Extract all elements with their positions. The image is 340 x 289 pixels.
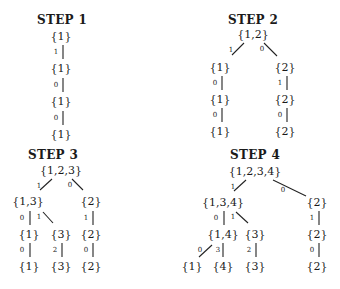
edge-label: 0 xyxy=(310,246,314,254)
tree-node: {1} xyxy=(51,128,72,141)
tree-node: {1,2} xyxy=(237,28,269,41)
subset-tree-diagram: STEP 1{1}{1}{1}{1}100STEP 2{1,2}{1}{1}{1… xyxy=(0,0,340,289)
tree-node: {1} xyxy=(19,260,40,273)
tree-node: {1} xyxy=(210,93,231,106)
tree-node: {1,2,3} xyxy=(40,164,82,177)
edge-lines xyxy=(0,0,340,289)
tree-node: {2} xyxy=(307,260,328,273)
edge-label: 0 xyxy=(198,246,202,254)
edge-label: 1 xyxy=(310,214,314,222)
step-title: STEP 3 xyxy=(28,148,78,162)
tree-edge xyxy=(232,43,244,55)
tree-node: {1} xyxy=(182,260,203,273)
tree-node: {4} xyxy=(213,260,234,273)
tree-edge xyxy=(264,43,277,56)
tree-node: {1,4} xyxy=(207,228,239,241)
edge-label: 0 xyxy=(54,114,58,122)
edge-label: 1 xyxy=(37,182,41,190)
edge-label: 1 xyxy=(229,46,233,54)
edge-label: 1 xyxy=(231,183,235,191)
edge-label: 1 xyxy=(231,213,235,221)
tree-node: {2} xyxy=(307,196,328,209)
step-title: STEP 1 xyxy=(37,13,87,27)
edge-label: 1 xyxy=(84,214,88,222)
edge-label: 1 xyxy=(54,48,58,56)
tree-edge xyxy=(72,179,83,190)
tree-node: {1,3} xyxy=(12,195,44,208)
tree-node: {3} xyxy=(51,260,72,273)
tree-node: {1} xyxy=(210,125,231,138)
edge-label: 0 xyxy=(214,214,218,222)
tree-node: {3} xyxy=(51,228,72,241)
tree-node: {2} xyxy=(81,195,102,208)
tree-node: {1,2,3,4} xyxy=(229,165,281,178)
edge-label: 0 xyxy=(278,111,282,119)
tree-node: {1} xyxy=(51,62,72,75)
tree-node: {1} xyxy=(51,30,72,43)
edge-label: 1 xyxy=(278,79,282,87)
edge-label: 3 xyxy=(216,246,220,254)
tree-edge xyxy=(234,180,246,191)
tree-node: {3} xyxy=(245,260,266,273)
tree-node: {2} xyxy=(307,228,328,241)
tree-node: {2} xyxy=(275,93,296,106)
tree-node: {3} xyxy=(245,228,266,241)
edge-label: 0 xyxy=(213,79,217,87)
edge-label: 0 xyxy=(54,81,58,89)
edge-label: 0 xyxy=(84,246,88,254)
edge-label: 0 xyxy=(260,45,264,53)
tree-edge xyxy=(40,179,52,190)
tree-node: {2} xyxy=(81,260,102,273)
edge-label: 0 xyxy=(213,111,217,119)
edge-label: 0 xyxy=(20,214,24,222)
edge-label: 0 xyxy=(68,181,72,189)
tree-edge xyxy=(273,180,306,196)
tree-node: {2} xyxy=(275,61,296,74)
tree-node: {2} xyxy=(275,125,296,138)
tree-edge xyxy=(43,212,53,223)
tree-node: {1} xyxy=(19,228,40,241)
edge-label: 0 xyxy=(20,246,24,254)
tree-node: {2} xyxy=(81,228,102,241)
tree-edge xyxy=(236,212,248,223)
tree-node: {1} xyxy=(51,95,72,108)
step-title: STEP 4 xyxy=(230,148,280,162)
step-title: STEP 2 xyxy=(228,13,278,27)
edge-label: 1 xyxy=(37,213,41,221)
tree-node: {1} xyxy=(210,61,231,74)
tree-node: {1,3,4} xyxy=(202,196,244,209)
edge-label: 0 xyxy=(281,186,285,194)
edge-label: 2 xyxy=(247,246,251,254)
edge-label: 2 xyxy=(53,246,57,254)
